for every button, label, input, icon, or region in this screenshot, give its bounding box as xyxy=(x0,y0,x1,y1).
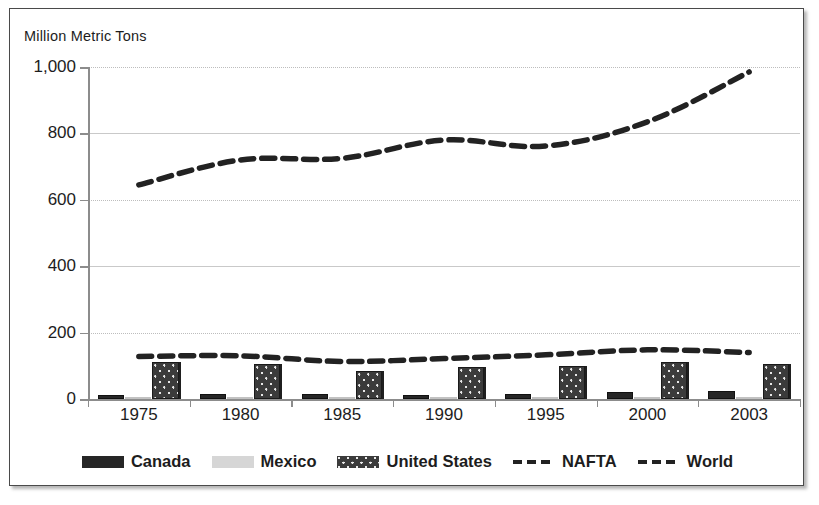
y-axis-tick-label: 800 xyxy=(12,123,76,143)
plot-area xyxy=(88,67,800,399)
y-axis-labels: 02004006008001,000 xyxy=(10,9,76,505)
bar-usa xyxy=(763,364,789,399)
y-axis-tick-mark xyxy=(80,399,88,401)
figure-container: Million Metric Tons 02004006008001,000 1… xyxy=(0,0,819,505)
y-axis-tick-label: 400 xyxy=(12,256,76,276)
gridline xyxy=(88,67,800,68)
bar-usa xyxy=(152,362,178,399)
gridline xyxy=(88,200,800,201)
chart-frame: Million Metric Tons 02004006008001,000 1… xyxy=(9,8,804,486)
legend-item-mexico[interactable]: Mexico xyxy=(212,452,317,471)
y-axis-tick-label: 200 xyxy=(12,323,76,343)
x-axis-tick-label: 1985 xyxy=(323,405,361,425)
legend-label: Canada xyxy=(131,452,191,471)
x-axis-tick-mark xyxy=(88,399,89,407)
y-axis-tick-label: 0 xyxy=(12,389,76,409)
x-axis-tick-label: 2003 xyxy=(730,405,768,425)
x-axis-tick-label: 1975 xyxy=(120,405,158,425)
bar-usa xyxy=(559,366,585,399)
legend-item-world[interactable]: World xyxy=(638,452,733,471)
x-axis-tick-mark xyxy=(698,399,699,407)
bar-canada xyxy=(708,391,734,399)
legend-label: United States xyxy=(386,452,491,471)
y-axis-tick-mark xyxy=(80,133,88,135)
x-axis-tick-mark xyxy=(800,399,801,407)
y-axis-line xyxy=(88,67,90,400)
y-axis-tick-mark xyxy=(80,200,88,202)
bar-usa xyxy=(661,362,687,399)
x-axis-tick-mark xyxy=(393,399,394,407)
gridline xyxy=(88,333,800,334)
legend-item-united-states[interactable]: United States xyxy=(337,452,491,471)
legend-swatch-world-icon xyxy=(638,456,680,468)
legend-label: NAFTA xyxy=(562,452,617,471)
plot-background xyxy=(88,67,800,399)
y-axis-tick-mark xyxy=(80,266,88,268)
y-axis-tick-mark xyxy=(80,333,88,335)
legend-label: Mexico xyxy=(261,452,317,471)
bar-usa xyxy=(254,364,280,399)
chart-legend: CanadaMexicoUnited StatesNAFTAWorld xyxy=(10,452,805,471)
x-axis-tick-mark xyxy=(190,399,191,407)
legend-item-nafta[interactable]: NAFTA xyxy=(513,452,617,471)
x-axis-line xyxy=(88,399,800,401)
x-axis-tick-mark xyxy=(291,399,292,407)
bar-usa xyxy=(458,367,484,399)
bar-usa xyxy=(356,371,382,399)
y-axis-tick-mark xyxy=(80,67,88,69)
legend-swatch-united-states-icon xyxy=(337,456,379,468)
legend-swatch-canada-icon xyxy=(82,456,124,468)
y-axis-tick-label: 600 xyxy=(12,190,76,210)
x-axis-tick-label: 1980 xyxy=(222,405,260,425)
x-axis-tick-mark xyxy=(597,399,598,407)
legend-label: World xyxy=(687,452,733,471)
gridline xyxy=(88,133,800,134)
bar-canada xyxy=(607,392,633,399)
x-axis-tick-mark xyxy=(495,399,496,407)
y-axis-tick-label: 1,000 xyxy=(12,57,76,77)
x-axis-tick-label: 1995 xyxy=(527,405,565,425)
x-axis-tick-label: 1990 xyxy=(425,405,463,425)
legend-item-canada[interactable]: Canada xyxy=(82,452,191,471)
legend-swatch-nafta-icon xyxy=(513,456,555,468)
legend-swatch-mexico-icon xyxy=(212,456,254,468)
x-axis-tick-label: 2000 xyxy=(629,405,667,425)
gridline xyxy=(88,266,800,267)
